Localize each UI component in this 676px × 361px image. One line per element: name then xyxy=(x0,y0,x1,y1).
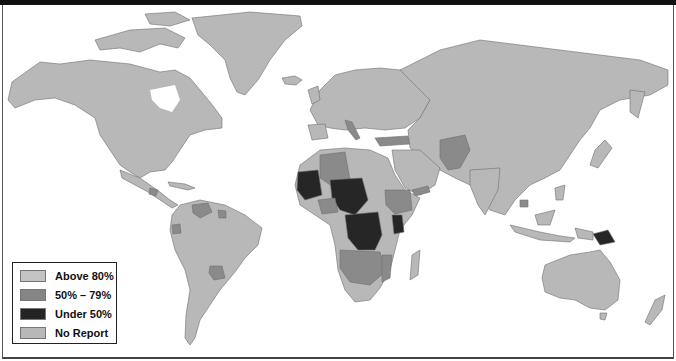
legend-item-no-report: No Report xyxy=(20,326,108,340)
indonesia xyxy=(510,225,575,242)
legend-label: No Report xyxy=(55,327,108,339)
legend-item-under-50: Under 50% xyxy=(20,307,112,321)
legend-swatch-above-80 xyxy=(20,270,46,282)
legend-label: 50% – 79% xyxy=(55,289,111,301)
kamchatka xyxy=(630,90,645,118)
legend-item-50-79: 50% – 79% xyxy=(20,288,111,302)
madagascar xyxy=(410,250,420,280)
turkey xyxy=(375,136,410,146)
north-america xyxy=(8,60,222,178)
asia xyxy=(400,40,668,215)
ecuador xyxy=(172,224,181,234)
central-america xyxy=(120,170,178,208)
legend-swatch-no-report xyxy=(20,327,46,339)
arctic-islands xyxy=(95,28,185,52)
mozambique xyxy=(382,255,392,282)
legend-label: Under 50% xyxy=(55,308,112,320)
kenya xyxy=(392,215,404,234)
australia xyxy=(542,250,620,310)
japan xyxy=(590,140,612,168)
guyana xyxy=(218,210,226,218)
cambodia xyxy=(520,200,528,207)
tasmania xyxy=(600,313,607,320)
papua-new-guinea xyxy=(593,230,615,245)
new-zealand xyxy=(645,295,665,325)
legend-swatch-under-50 xyxy=(20,308,46,320)
legend-label: Above 80% xyxy=(55,270,114,282)
iceland xyxy=(282,76,302,85)
legend-item-above-80: Above 80% xyxy=(20,269,114,283)
map-legend: Above 80% 50% – 79% Under 50% No Report xyxy=(12,262,117,344)
legend-swatch-50-79 xyxy=(20,289,46,301)
iberia xyxy=(308,124,328,140)
